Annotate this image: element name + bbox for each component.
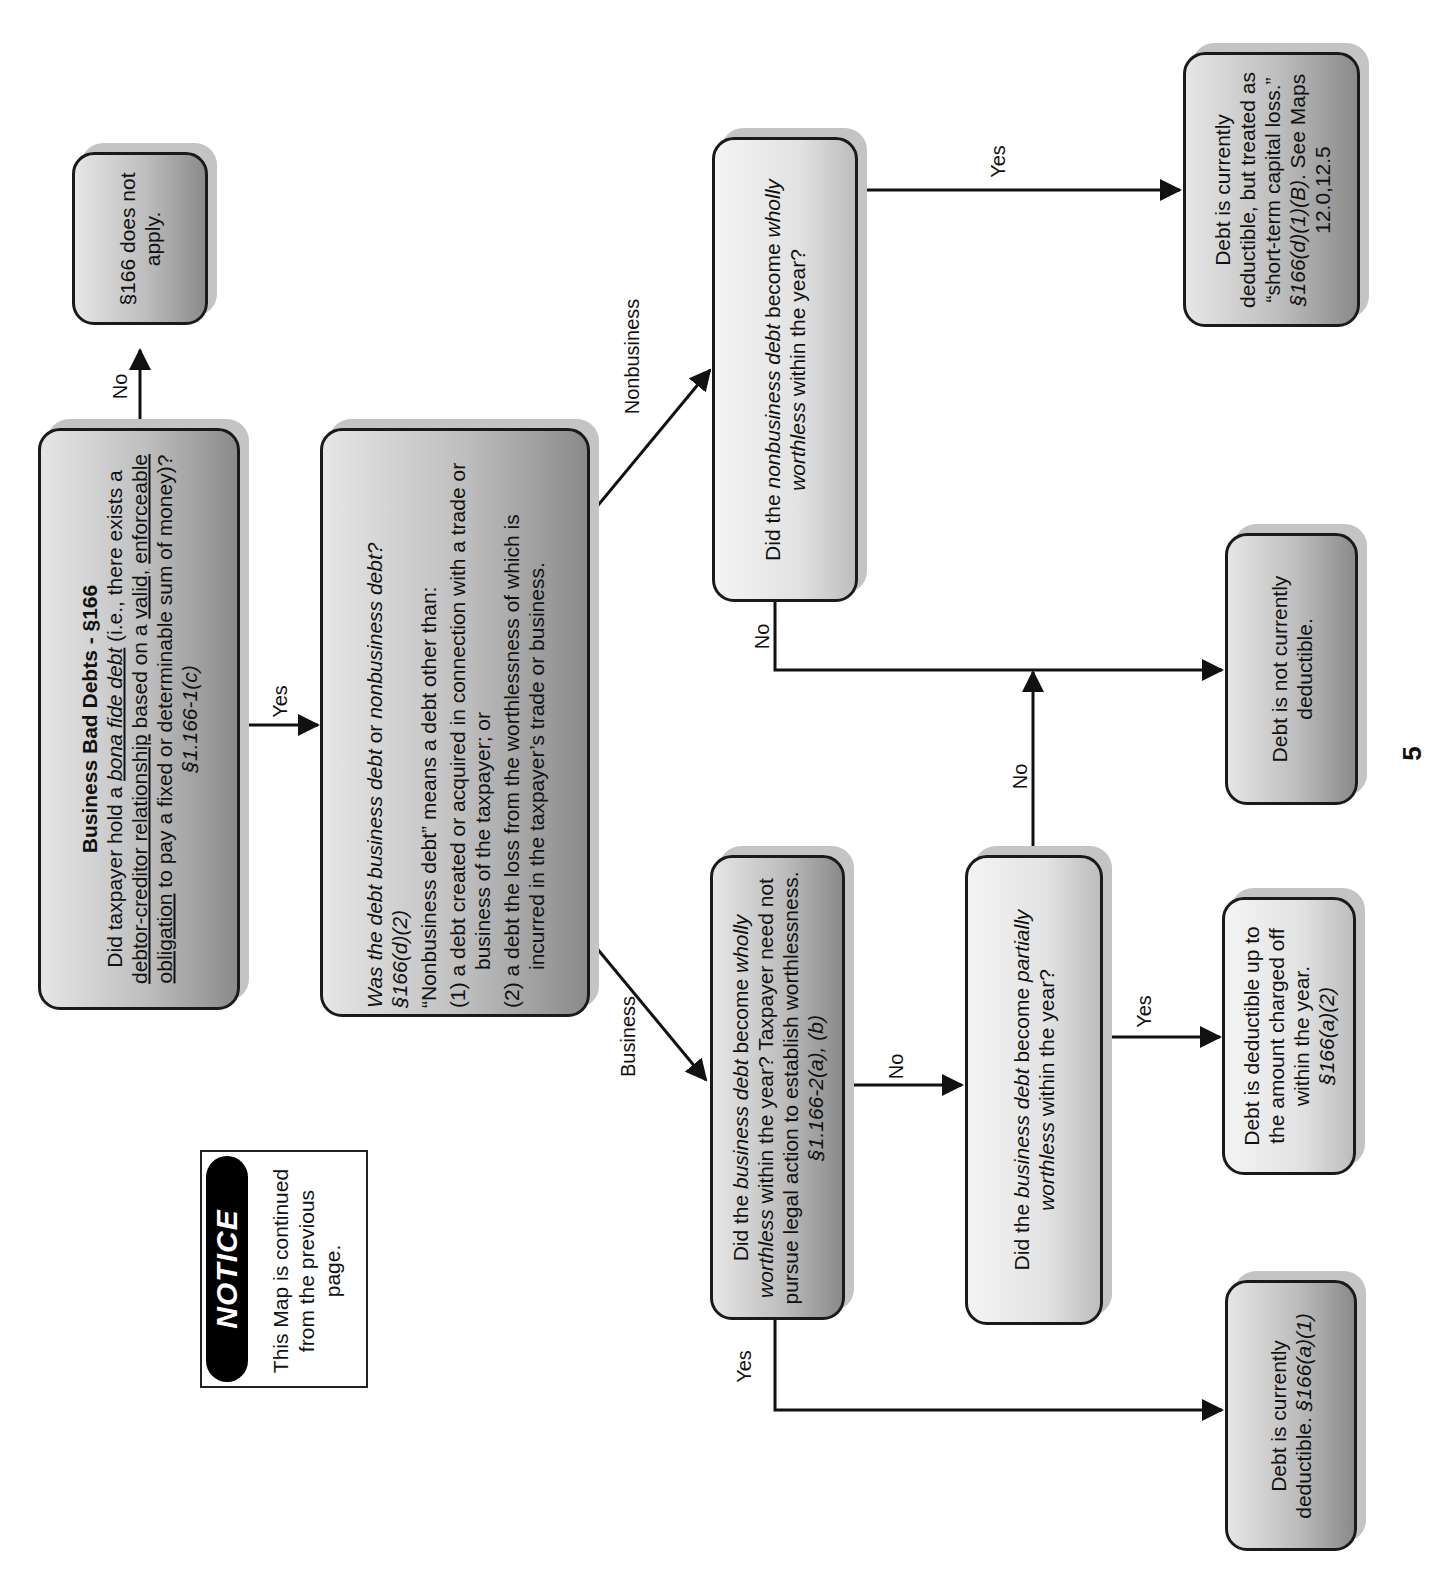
node-question: Was the debt business debt or nonbusines… (362, 438, 387, 1008)
node-title: Business Bad Debts - §166 (77, 439, 102, 999)
citation: §166(d)(1)(B) (1285, 180, 1308, 306)
edge-label-bw-yes: Yes (733, 1350, 756, 1383)
node-text: §166 does not apply. (115, 164, 165, 314)
node-currently-deductible: Debt is currently deductible. §166(a)(1) (1225, 1280, 1357, 1551)
node-not-apply: §166 does not apply. (72, 152, 208, 325)
notice-text: This Map is continued from the previous … (268, 1161, 346, 1381)
citation: §1.166-1(c) (178, 665, 201, 772)
definition-list: (1) a debt created or acquired in connec… (445, 438, 549, 1008)
edge-label-nonbusiness: Nonbusiness (621, 299, 644, 415)
definition: “Nonbusiness debt” means a debt other th… (416, 438, 441, 1008)
edge-label-start-yes: Yes (269, 685, 292, 718)
node-nonbusiness-wholly-worthless: Did the nonbusiness debt become wholly w… (712, 137, 858, 602)
edge-label-bp-yes: Yes (1133, 995, 1156, 1028)
node-start-bona-fide-debt: Business Bad Debts - §166 Did taxpayer h… (38, 428, 240, 1010)
notice-box: NOTICE This Map is continued from the pr… (200, 1150, 368, 1388)
page-number: 5 (1397, 746, 1428, 760)
node-partial-deduction: Debt is deductible up to the amount char… (1222, 897, 1356, 1175)
edge-label-nb-yes: Yes (987, 145, 1010, 178)
citation: §166(a)(1) (1292, 1313, 1315, 1411)
edge-label-bw-no: No (885, 1054, 908, 1080)
citation: §166(a)(2) (1315, 987, 1338, 1085)
definition-item: (1) a debt created or acquired in connec… (445, 438, 495, 1008)
node-text: Debt is not currently deductible. (1267, 569, 1317, 769)
node-business-partially-worthless: Did the business debt become partially w… (965, 855, 1103, 1325)
definition-item: (2) a debt the loss from the worthlessne… (499, 438, 549, 1008)
citation: §1.166-2(a), (b) (804, 1015, 827, 1161)
node-question: Did taxpayer hold a bona fide debt (i.e.… (102, 439, 202, 999)
node-business-wholly-worthless: Did the business debt become wholly wort… (710, 855, 845, 1320)
node-not-deductible: Debt is not currently deductible. (1225, 533, 1358, 805)
edge-label-start-no: No (109, 374, 132, 400)
citation: §166(d)(2) (388, 909, 411, 1007)
node-short-term-capital-loss: Debt is currently deductible, but treate… (1183, 52, 1360, 327)
edge-label-nb-no: No (751, 624, 774, 650)
notice-badge: NOTICE (206, 1156, 248, 1382)
edge-label-bp-no: No (1009, 764, 1032, 790)
node-classify-debt: Was the debt business debt or nonbusines… (320, 428, 590, 1017)
edge-label-business: Business (617, 996, 640, 1077)
